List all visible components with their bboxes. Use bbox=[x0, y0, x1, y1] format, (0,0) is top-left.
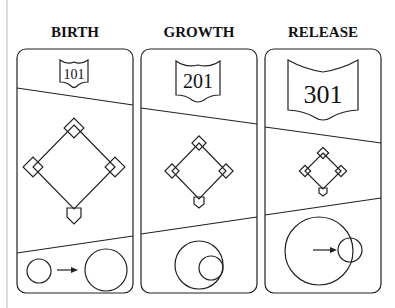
stage-title: BIRTH bbox=[51, 24, 99, 40]
large-circle bbox=[85, 249, 127, 291]
divider-line bbox=[17, 236, 133, 253]
diamond-diagram bbox=[23, 118, 125, 224]
diagram-canvas: BIRTH 101 GROWTH 201 bbox=[0, 0, 395, 308]
tag-number: 101 bbox=[64, 67, 85, 82]
large-circle bbox=[285, 217, 353, 285]
stage-panel bbox=[17, 49, 133, 293]
tag-number: 201 bbox=[183, 70, 213, 92]
small-circle bbox=[27, 259, 51, 283]
stage-release: RELEASE 301 bbox=[265, 24, 381, 293]
small-circle bbox=[338, 238, 362, 262]
stage-title: GROWTH bbox=[164, 24, 235, 40]
inner-circle bbox=[199, 256, 223, 280]
tag-number: 301 bbox=[304, 80, 343, 109]
stage-title: RELEASE bbox=[288, 24, 358, 40]
diamond-diagram bbox=[165, 136, 233, 208]
divider-line bbox=[141, 108, 257, 124]
divider-line bbox=[141, 217, 257, 234]
divider-line bbox=[265, 198, 381, 215]
arrow-head-icon bbox=[71, 267, 78, 273]
stage-birth: BIRTH 101 bbox=[17, 24, 133, 293]
divider-line bbox=[265, 127, 381, 143]
diamond-diagram bbox=[299, 147, 346, 196]
stage-growth: GROWTH 201 bbox=[141, 24, 257, 293]
divider-line bbox=[17, 88, 133, 105]
arrow-head-icon bbox=[330, 247, 337, 253]
